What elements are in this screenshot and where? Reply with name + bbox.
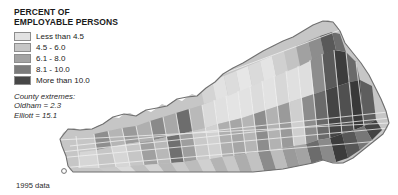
legend-title: PERCENT OF EMPLOYABLE PERSONS xyxy=(14,7,132,27)
legend-item[interactable]: Less than 4.5 xyxy=(14,31,132,41)
legend-swatch xyxy=(14,65,31,74)
legend-title-line1: PERCENT OF xyxy=(14,7,132,17)
legend-label: Less than 4.5 xyxy=(36,32,84,41)
legend-item[interactable]: More than 10.0 xyxy=(14,75,132,85)
legend-item[interactable]: 6.1 - 8.0 xyxy=(14,53,132,63)
legend-swatch xyxy=(14,32,31,41)
extreme-minimum: Oldham = 2.3 xyxy=(14,101,132,111)
legend-class-list: Less than 4.5 4.5 - 6.0 6.1 - 8.0 8.1 - … xyxy=(14,31,132,85)
legend-swatch xyxy=(14,54,31,63)
source-caption: 1995 data xyxy=(16,181,50,190)
county-extremes-note: County extremes: Oldham = 2.3 Elliott = … xyxy=(14,92,132,121)
legend-title-line2: EMPLOYABLE PERSONS xyxy=(14,17,132,27)
legend-item[interactable]: 4.5 - 6.0 xyxy=(14,42,132,52)
legend-label: 4.5 - 6.0 xyxy=(36,43,65,52)
legend-item[interactable]: 8.1 - 10.0 xyxy=(14,64,132,74)
map-figure: PERCENT OF EMPLOYABLE PERSONS Less than … xyxy=(0,0,398,195)
extremes-heading: County extremes: xyxy=(14,92,132,102)
western-tip-marker xyxy=(62,169,67,174)
legend-swatch xyxy=(14,76,31,85)
legend-label: More than 10.0 xyxy=(36,76,90,85)
legend-label: 8.1 - 10.0 xyxy=(36,65,70,74)
legend-swatch xyxy=(14,43,31,52)
legend-label: 6.1 - 8.0 xyxy=(36,54,65,63)
map-legend: PERCENT OF EMPLOYABLE PERSONS Less than … xyxy=(14,7,132,121)
extreme-maximum: Elliott = 15.1 xyxy=(14,111,132,121)
